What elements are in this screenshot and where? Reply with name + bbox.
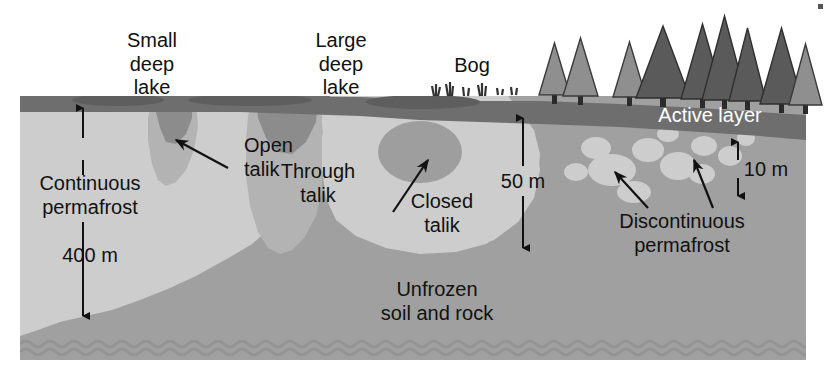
unfrozen-line1: Unfrozen: [396, 278, 477, 300]
label-small-deep-lake: Small deep lake: [127, 29, 177, 98]
permafrost-patch: [632, 138, 664, 162]
discontinuous-permafrost-line1: Discontinuous: [619, 210, 745, 232]
permafrost-patch: [564, 163, 588, 181]
closed-talik-line2: talik: [424, 214, 461, 236]
through-talik-line1: Through: [281, 160, 356, 182]
permafrost-diagram: Small deep lake Large deep lake Bog Acti…: [0, 0, 826, 383]
large-deep-lake-line3: lake: [323, 76, 360, 98]
label-large-deep-lake: Large deep lake: [315, 29, 366, 98]
unfrozen-line2: soil and rock: [381, 302, 494, 324]
closed-talik-line1: Closed: [411, 190, 473, 212]
permafrost-patch: [581, 137, 611, 159]
corner-mark: [818, 4, 823, 9]
discontinuous-permafrost-line2: permafrost: [634, 234, 730, 256]
open-talik-line1: Open: [244, 134, 293, 156]
large-deep-lake-line2: deep: [319, 53, 364, 75]
continuous-permafrost-line2: permafrost: [42, 196, 138, 218]
small-deep-lake-line2: deep: [130, 53, 175, 75]
small-deep-lake-line1: Small: [127, 29, 177, 51]
permafrost-patch: [691, 136, 717, 156]
large-deep-lake-line1: Large: [315, 29, 366, 51]
measure-50m: 50 m: [501, 170, 545, 192]
label-bog: Bog: [454, 54, 490, 76]
through-talik-line2: talik: [300, 184, 337, 206]
measure-10m: 10 m: [744, 158, 788, 180]
bog-water: [366, 95, 480, 109]
measure-400m: 400 m: [62, 244, 118, 266]
label-active-layer: Active layer: [658, 104, 762, 126]
continuous-permafrost-line1: Continuous: [39, 172, 140, 194]
open-talik-line2: talik: [244, 158, 281, 180]
diagram-canvas: Small deep lake Large deep lake Bog Acti…: [0, 0, 826, 383]
small-deep-lake-line3: lake: [134, 76, 171, 98]
